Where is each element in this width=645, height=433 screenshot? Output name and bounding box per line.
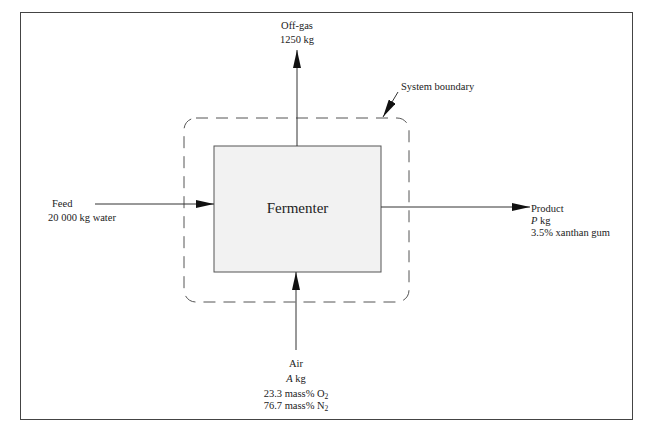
feed-amount: 20 000 kg water <box>48 212 116 224</box>
product-quantity: P kg <box>531 215 610 227</box>
offgas-name: Off-gas <box>280 20 314 32</box>
air-name: Air <box>264 358 329 370</box>
air-quantity: A kg <box>264 373 329 385</box>
product-composition: 3.5% xanthan gum <box>531 227 610 239</box>
system-boundary-label: System boundary <box>401 81 474 93</box>
feed-label: Feed 20 000 kg water <box>52 198 116 224</box>
air-n2: 76.7 mass% N2 <box>264 400 329 412</box>
air-label: Air A kg 23.3 mass% O2 76.7 mass% N2 <box>264 358 329 412</box>
offgas-amount: 1250 kg <box>280 34 314 46</box>
feed-name: Feed <box>52 198 116 210</box>
fermenter-label: Fermenter <box>214 200 381 217</box>
product-name: Product <box>531 203 610 215</box>
offgas-label: Off-gas 1250 kg <box>280 20 314 46</box>
boundary-pointer-arrow <box>383 92 398 117</box>
air-o2: 23.3 mass% O2 <box>264 388 329 400</box>
product-label: Product P kg 3.5% xanthan gum <box>531 203 610 239</box>
